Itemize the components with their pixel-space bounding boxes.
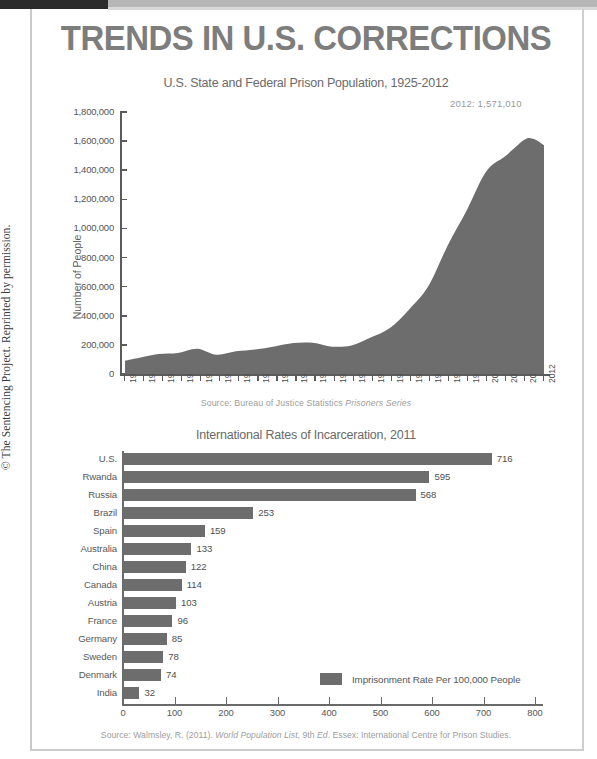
x-tick (543, 375, 544, 381)
x-tick (238, 375, 239, 381)
y-tick-label: 400,000 (38, 310, 114, 321)
bar (123, 597, 176, 609)
bar-category-label: China (32, 559, 117, 575)
source-text: Source: Walmsley, R. (2011). (101, 730, 215, 740)
x-tick-label: 800 (527, 707, 542, 718)
bar-row: China122 (32, 559, 552, 575)
bar-category-label: India (32, 685, 117, 701)
y-tick-label-wrap: 0 (32, 368, 114, 380)
x-tick (276, 375, 277, 381)
bar (123, 561, 186, 573)
bar-row: Russia568 (32, 487, 552, 503)
scan-edge-gray (108, 0, 597, 7)
x-tick (381, 697, 382, 705)
x-tick (391, 375, 392, 381)
bar-value-label: 159 (210, 523, 226, 539)
y-tick-label: 0 (38, 368, 114, 379)
bar-row: Sweden78 (32, 649, 552, 665)
bar-category-label: Brazil (32, 505, 117, 521)
x-tick (257, 375, 258, 381)
page-border-right (582, 9, 584, 751)
bar (123, 453, 492, 465)
chart-source-incarceration-rates: Source: Walmsley, R. (2011). World Popul… (32, 730, 580, 740)
bar (123, 471, 429, 483)
chart-source-prison-population: Source: Bureau of Justice Statistics Pri… (32, 398, 580, 408)
scan-edge-dark (0, 0, 108, 9)
bar (123, 525, 205, 537)
bar-category-label: Germany (32, 631, 117, 647)
chart-legend: Imprisonment Rate Per 100,000 People (320, 670, 521, 688)
bar-value-label: 78 (168, 649, 178, 665)
x-axis-line (122, 704, 543, 706)
source-text: Source: Bureau of Justice Statistics (201, 398, 346, 408)
chart-title-incarceration-rates: International Rates of Incarceration, 20… (32, 428, 580, 442)
bar-value-label: 716 (497, 451, 513, 467)
bar-value-label: 74 (166, 667, 176, 683)
y-tick-label-wrap: 1,200,000 (32, 193, 114, 205)
x-tick-label: 700 (476, 707, 491, 718)
bar-category-label: France (32, 613, 117, 629)
source-italic: World Population List (215, 730, 297, 740)
bar-value-label: 32 (144, 685, 154, 701)
bar-value-label: 96 (177, 613, 187, 629)
bar-value-label: 133 (196, 541, 212, 557)
x-tick (535, 697, 536, 705)
x-tick (467, 375, 468, 381)
source-text-3: . Essex: International Centre for Prison… (328, 730, 512, 740)
x-tick (484, 697, 485, 705)
x-tick (200, 375, 201, 381)
bar-category-label: Spain (32, 523, 117, 539)
bar-category-label: Russia (32, 487, 117, 503)
bar-value-label: 85 (172, 631, 182, 647)
scan-edge-gray-light (108, 7, 597, 10)
bar-category-label: Denmark (32, 667, 117, 683)
y-tick-label-wrap: 1,800,000 (32, 106, 114, 118)
x-tick (295, 375, 296, 381)
bar-category-label: Canada (32, 577, 117, 593)
bar-row: Austria103 (32, 595, 552, 611)
y-tick-label: 200,000 (38, 339, 114, 350)
bar-row: Canada114 (32, 577, 552, 593)
x-tick (143, 375, 144, 381)
y-tick-label: 1,200,000 (38, 193, 114, 204)
bar (123, 507, 253, 519)
bar (123, 633, 167, 645)
bar-row: Rwanda595 (32, 469, 552, 485)
x-tick-label: 300 (270, 707, 285, 718)
y-tick-label-wrap: 800,000 (32, 252, 114, 264)
copyright-notice: © The Sentencing Project. Reprinted by p… (0, 200, 18, 470)
bar (123, 615, 172, 627)
y-tick-label: 1,800,000 (38, 106, 114, 117)
legend-label: Imprisonment Rate Per 100,000 People (352, 674, 521, 685)
x-tick-label: 400 (321, 707, 336, 718)
x-tick (486, 375, 487, 381)
x-tick (334, 375, 335, 381)
bar-value-label: 122 (191, 559, 207, 575)
bar (123, 543, 191, 555)
x-tick (329, 697, 330, 705)
bar-row: Brazil253 (32, 505, 552, 521)
y-tick-label: 800,000 (38, 252, 114, 263)
bar-row: Spain159 (32, 523, 552, 539)
y-tick-label-wrap: 400,000 (32, 310, 114, 322)
y-tick-label: 1,400,000 (38, 164, 114, 175)
bar-category-label: Austria (32, 595, 117, 611)
x-tick (432, 697, 433, 705)
bar-value-label: 595 (434, 469, 450, 485)
x-tick (124, 375, 125, 381)
legend-swatch (320, 673, 342, 685)
source-italic-2: Ed (317, 730, 328, 740)
x-tick (175, 697, 176, 705)
y-tick-label: 1,000,000 (38, 222, 114, 233)
x-tick (181, 375, 182, 381)
area-series (121, 112, 550, 375)
x-tick (353, 375, 354, 381)
y-tick-label: 1,600,000 (38, 135, 114, 146)
x-tick (219, 375, 220, 381)
bar (123, 687, 139, 699)
page-title: TRENDS IN U.S. CORRECTIONS (48, 18, 563, 58)
x-tick (410, 375, 411, 381)
x-tick (278, 697, 279, 705)
bar-row: France96 (32, 613, 552, 629)
x-tick-label: 500 (373, 707, 388, 718)
